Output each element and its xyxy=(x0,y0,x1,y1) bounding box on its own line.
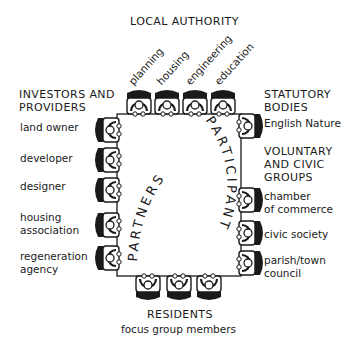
english-nature-label: English Nature xyxy=(264,117,341,129)
civic-society-label: civic society xyxy=(264,228,328,240)
developer-label: developer xyxy=(20,152,73,164)
investors-title-line1: INVESTORS AND xyxy=(19,89,115,102)
investors-title-line2: PROVIDERS xyxy=(19,102,86,115)
housing-association-label-line1: housing xyxy=(20,211,61,223)
voluntary-title-line1: VOLUNTARY xyxy=(264,146,333,159)
designer-label: designer xyxy=(20,180,66,192)
regeneration-agency-label-line1: regeneration xyxy=(20,250,88,262)
participant-label: PARTICIPANT xyxy=(203,113,240,233)
housing-association-label-line2: association xyxy=(20,224,79,236)
regeneration-agency-label-line2: agency xyxy=(20,263,58,275)
residents-subtitle: focus group members xyxy=(121,323,236,335)
land-owner-label: land owner xyxy=(20,121,78,133)
statutory-title-line1: STATUTORY xyxy=(264,89,331,102)
chamber-of-commerce-label-line1: chamber xyxy=(264,190,311,202)
partners-label: PARTNERS xyxy=(125,170,168,262)
residents-title: RESIDENTS xyxy=(147,309,213,322)
statutory-title-line2: BODIES xyxy=(264,102,308,115)
local-authority-title: LOCAL AUTHORITY xyxy=(130,16,239,29)
chamber-of-commerce-label-line2: of commerce xyxy=(264,203,333,215)
parish-council-label-line2: council xyxy=(264,267,301,279)
voluntary-title-line3: GROUPS xyxy=(264,172,313,185)
voluntary-title-line2: AND CIVIC xyxy=(264,159,325,172)
parish-council-label-line1: parish/town xyxy=(264,254,326,266)
